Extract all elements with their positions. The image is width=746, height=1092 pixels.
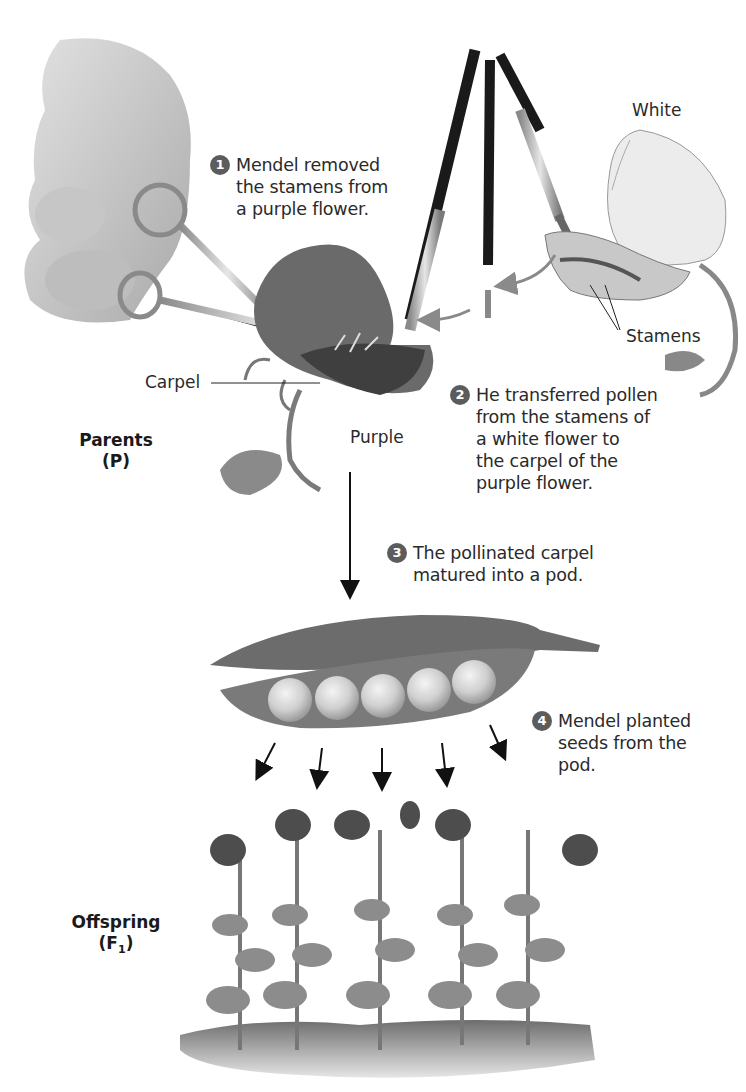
step-4-line: Mendel planted bbox=[558, 710, 691, 732]
step-3-line: matured into a pod. bbox=[413, 564, 594, 586]
offspring-name: Offspring bbox=[66, 912, 166, 933]
purple-flower-label: Purple bbox=[350, 427, 404, 447]
step-1-line: the stamens from bbox=[236, 176, 388, 198]
parents-name: Parents bbox=[76, 430, 156, 451]
step-4-line: seeds from the bbox=[558, 732, 691, 754]
offspring-symbol-prefix: (F bbox=[99, 933, 118, 953]
parents-symbol: (P) bbox=[76, 451, 156, 472]
offspring-symbol: (F1) bbox=[66, 933, 166, 960]
step-2-line: the carpel of the bbox=[476, 450, 658, 472]
step-4-line: pod. bbox=[558, 754, 691, 776]
step-4-annotation: 4 Mendel planted seeds from the pod. bbox=[558, 710, 691, 776]
white-flower-illustration bbox=[545, 130, 736, 395]
stamens-label: Stamens bbox=[626, 326, 701, 346]
step-2-line: from the stamens of bbox=[476, 406, 658, 428]
step-number-badge: 1 bbox=[210, 155, 230, 175]
step-number-badge: 4 bbox=[532, 711, 552, 731]
step-number-badge: 3 bbox=[387, 543, 407, 563]
step-3-annotation: 3 The pollinated carpel matured into a p… bbox=[413, 542, 594, 586]
step-1-annotation: 1 Mendel removed the stamens from a purp… bbox=[236, 154, 388, 220]
step-2-line: He transferred pollen bbox=[476, 384, 658, 406]
paintbrushes-illustration bbox=[410, 50, 568, 330]
offspring-generation-label: Offspring (F1) bbox=[66, 912, 166, 960]
step-1-line: a purple flower. bbox=[236, 198, 388, 220]
step-1-line: Mendel removed bbox=[236, 154, 388, 176]
step-2-annotation: 2 He transferred pollen from the stamens… bbox=[476, 384, 658, 494]
carpel-label: Carpel bbox=[145, 372, 200, 392]
step-3-line: The pollinated carpel bbox=[413, 542, 594, 564]
step-2-line: purple flower. bbox=[476, 472, 658, 494]
mendel-cross-diagram: 1 Mendel removed the stamens from a purp… bbox=[0, 0, 746, 1092]
white-flower-label: White bbox=[632, 100, 681, 120]
offspring-symbol-subscript: 1 bbox=[118, 943, 126, 956]
step-number-badge: 2 bbox=[450, 385, 470, 405]
offspring-symbol-suffix: ) bbox=[126, 933, 134, 953]
pollen-transfer-arrow bbox=[505, 255, 555, 285]
step-2-line: a white flower to bbox=[476, 428, 658, 450]
offspring-plants-illustration bbox=[180, 801, 598, 1078]
purple-flower-illustration bbox=[220, 244, 433, 495]
parents-generation-label: Parents (P) bbox=[76, 430, 156, 472]
planting-arrows bbox=[260, 725, 502, 782]
